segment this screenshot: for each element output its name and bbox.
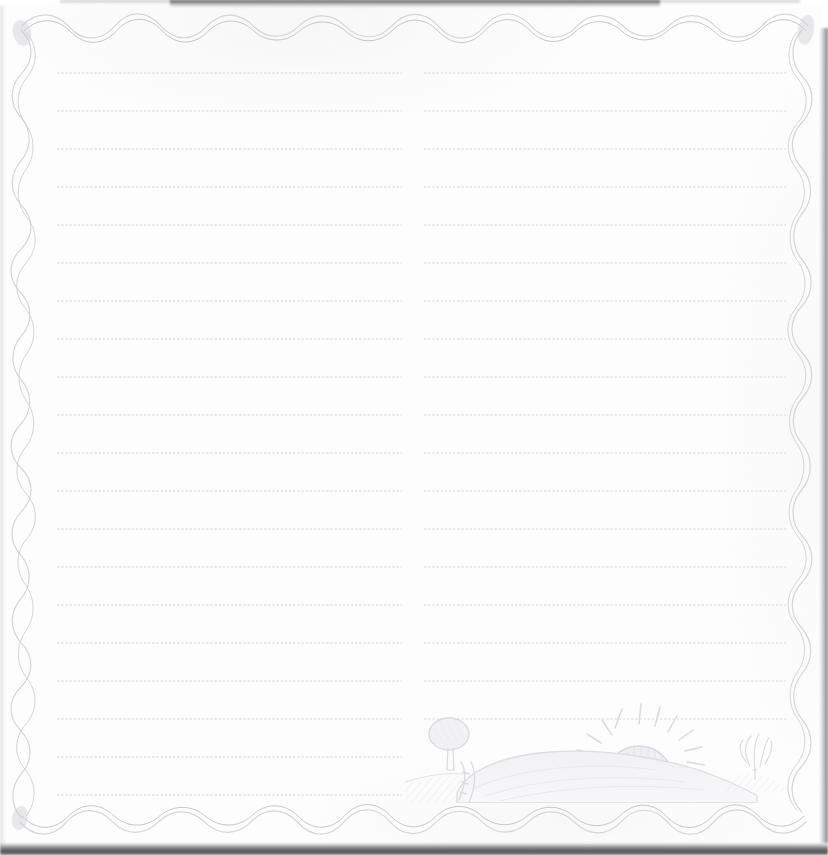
paper-sheet	[4, 5, 822, 846]
notepaper-page	[0, 0, 828, 855]
scan-edge-top	[60, 0, 800, 4]
